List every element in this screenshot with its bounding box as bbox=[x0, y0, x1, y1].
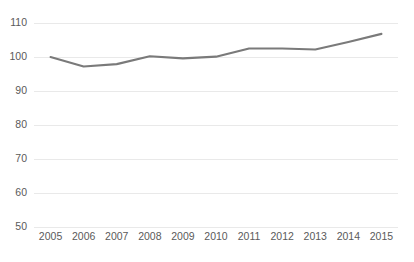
y-axis-tick-label: 100 bbox=[9, 50, 27, 62]
chart-canvas: 1101009080706050 20052006200720082009201… bbox=[0, 0, 414, 262]
x-axis-tick-label: 2012 bbox=[271, 230, 295, 242]
gridlines bbox=[34, 24, 398, 228]
y-axis-tick-label: 80 bbox=[15, 118, 27, 130]
x-axis-tick-label: 2014 bbox=[337, 230, 361, 242]
y-axis-tick-label: 110 bbox=[10, 16, 27, 28]
x-axis-tick-label: 2006 bbox=[72, 230, 96, 242]
x-axis-tick-label: 2013 bbox=[304, 230, 328, 242]
y-axis-tick-label: 90 bbox=[15, 84, 27, 96]
x-axis-tick-label: 2008 bbox=[138, 230, 162, 242]
x-axis-tick-label: 2010 bbox=[204, 230, 228, 242]
x-axis-tick-label: 2015 bbox=[370, 230, 394, 242]
x-axis-tick-label: 2011 bbox=[238, 230, 261, 242]
y-axis-tick-label: 50 bbox=[15, 220, 27, 232]
x-axis-tick-labels: 2005200620072008200920102011201220132014… bbox=[39, 230, 393, 242]
y-axis-tick-label: 60 bbox=[15, 186, 27, 198]
y-axis-tick-label: 70 bbox=[15, 152, 27, 164]
y-axis-tick-labels: 1101009080706050 bbox=[9, 16, 27, 232]
x-axis-tick-label: 2009 bbox=[171, 230, 195, 242]
x-axis-tick-label: 2005 bbox=[39, 230, 63, 242]
line-chart: 1101009080706050 20052006200720082009201… bbox=[0, 0, 414, 262]
x-axis-tick-label: 2007 bbox=[105, 230, 129, 242]
data-series bbox=[51, 34, 382, 67]
series-line bbox=[51, 34, 382, 67]
